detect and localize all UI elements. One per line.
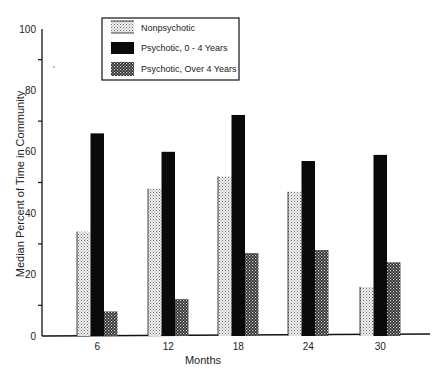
bar-chart: Median Percent of Time in Community 0204…	[0, 0, 447, 381]
x-axis-labels: 612182430	[94, 341, 386, 352]
bar-nonpsychotic	[218, 176, 232, 336]
bar-group-24	[288, 161, 329, 336]
legend-swatch-solid	[111, 42, 134, 54]
bar-nonpsychotic	[77, 232, 91, 336]
bar-group-12	[148, 152, 189, 336]
legend-swatch-light-dots	[111, 21, 134, 33]
x-tick-label: 12	[163, 341, 175, 352]
y-tick-label: 100	[19, 24, 36, 35]
y-tick-label: 0	[30, 331, 36, 342]
bar-nonpsychotic	[288, 192, 302, 336]
bar-nonpsychotic	[148, 189, 162, 336]
x-tick-label: 30	[375, 341, 387, 352]
x-tick-label: 18	[233, 341, 245, 352]
bar-group-18	[218, 115, 259, 336]
scan-speck	[53, 66, 54, 67]
bar-psychotic-0-4	[232, 115, 246, 336]
bar-psychotic-over-4	[104, 311, 118, 336]
y-tick-label: 40	[25, 208, 37, 219]
bar-psychotic-over-4	[175, 299, 189, 336]
bar-psychotic-0-4	[162, 152, 176, 336]
bar-psychotic-over-4	[315, 250, 329, 336]
legend: Nonpsychotic Psychotic, 0 - 4 Years Psyc…	[102, 18, 239, 80]
bar-nonpsychotic	[360, 287, 374, 336]
bar-psychotic-over-4	[245, 253, 259, 336]
legend-item-nonpsychotic: Nonpsychotic	[111, 21, 196, 33]
legend-label: Psychotic, 0 - 4 Years	[141, 43, 228, 53]
bars	[77, 115, 401, 336]
bar-psychotic-0-4	[91, 133, 105, 336]
x-tick-label: 6	[94, 341, 100, 352]
bar-psychotic-over-4	[387, 262, 401, 336]
x-axis-title: Months	[185, 354, 222, 366]
x-tick-label: 24	[303, 341, 315, 352]
y-tick-label: 20	[25, 269, 37, 280]
bar-psychotic-0-4	[302, 161, 316, 336]
legend-swatch-dark-checker	[111, 62, 134, 76]
legend-item-psychotic-0-4: Psychotic, 0 - 4 Years	[111, 42, 228, 54]
bar-psychotic-0-4	[374, 155, 388, 336]
y-tick-label: 80	[25, 85, 37, 96]
bar-group-6	[77, 133, 118, 336]
bar-group-30	[360, 155, 401, 336]
y-tick-label: 60	[25, 146, 37, 157]
legend-label: Nonpsychotic	[141, 23, 196, 33]
y-axis-title: Median Percent of Time in Community	[14, 90, 26, 277]
legend-label: Psychotic, Over 4 Years	[141, 64, 237, 74]
legend-item-psychotic-over-4: Psychotic, Over 4 Years	[111, 62, 237, 76]
